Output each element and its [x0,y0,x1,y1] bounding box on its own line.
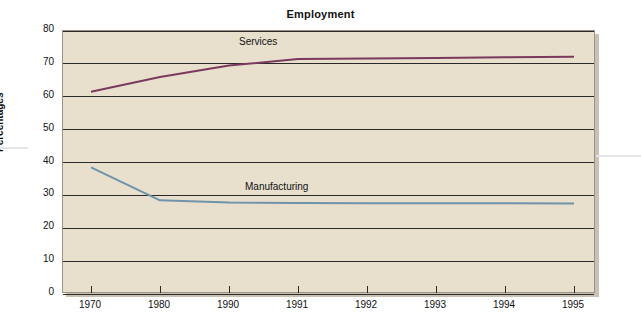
x-axis-tick-label: 1970 [67,299,113,310]
y-axis-tick-label: 10 [28,253,54,264]
y-axis-tick-label: 80 [28,23,54,34]
y-axis-tick-label: 30 [28,187,54,198]
x-axis-tick-label: 1991 [274,299,320,310]
y-axis-tick-label: 60 [28,89,54,100]
chart-figure: Employment Percentages 01020304050607080… [0,0,641,333]
x-axis-tick-label: 1992 [343,299,389,310]
y-axis-label: Percentages [0,93,5,152]
scan-artifact [596,155,641,157]
y-axis-tick-label: 0 [28,286,54,297]
y-axis-tick-label: 70 [28,56,54,67]
x-axis-tick-label: 1995 [550,299,596,310]
x-axis-tick-label: 1990 [205,299,251,310]
x-axis-tick-label: 1980 [136,299,182,310]
series-line-services [91,57,574,92]
x-axis-tick-label: 1994 [481,299,527,310]
y-axis-tick-label: 20 [28,220,54,231]
scan-artifact [0,147,28,149]
series-annotation-manufacturing: Manufacturing [245,181,308,192]
chart-title: Employment [0,8,641,20]
y-axis-tick-label: 40 [28,155,54,166]
series-annotation-services: Services [239,36,277,47]
plot-area [62,30,595,293]
x-axis-tick-label: 1993 [412,299,458,310]
y-axis-tick-label: 50 [28,122,54,133]
series-line-manufacturing [91,167,574,203]
series-lines [63,31,596,294]
